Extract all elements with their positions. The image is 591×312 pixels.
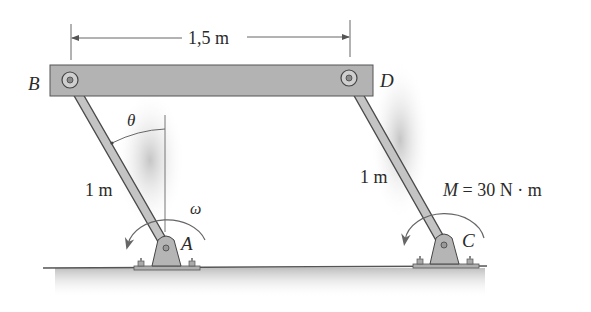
point-label-b: B <box>28 74 40 93</box>
pin-b-icon <box>62 72 78 88</box>
bar-bd <box>50 65 373 96</box>
link-cd-length-label: 1 m <box>360 168 388 186</box>
diagram-graphics <box>0 0 591 312</box>
link-ab-length-label: 1 m <box>85 181 113 199</box>
moment-label: M = 30 N · m <box>443 181 542 199</box>
linkage-diagram: 1,5 m B D A C θ ω 1 m 1 m M = 30 N · m <box>0 0 591 312</box>
pin-d-icon <box>341 70 357 86</box>
point-label-a: A <box>181 234 193 253</box>
dimension-label: 1,5 m <box>188 29 229 47</box>
point-label-c: C <box>462 231 475 250</box>
point-label-d: D <box>380 71 394 90</box>
omega-label: ω <box>190 201 201 217</box>
theta-label: θ <box>127 112 135 129</box>
